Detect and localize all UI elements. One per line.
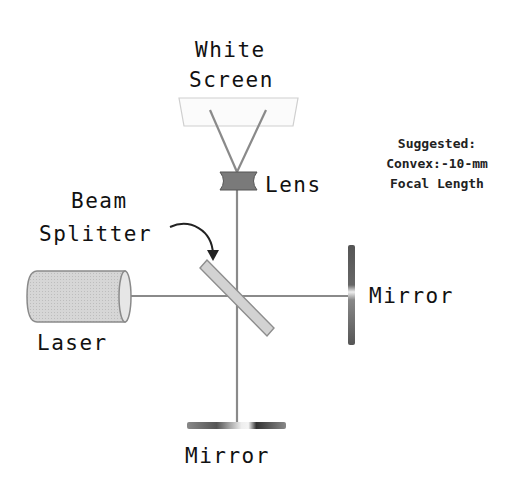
mirror-right	[348, 245, 355, 345]
label-mirror-right: Mirror	[369, 286, 454, 307]
label-laser: Laser	[37, 333, 108, 354]
label-white: White	[195, 40, 266, 61]
note-line2: Convex:-10-mm	[352, 154, 522, 174]
laser-body	[27, 271, 131, 322]
note-line1: Suggested:	[352, 134, 522, 154]
label-mirror-bottom: Mirror	[185, 446, 270, 467]
label-beam: Beam	[71, 191, 128, 212]
suggestion-note: Suggested: Convex:-10-mm Focal Length	[352, 134, 522, 194]
splitter-arrow-icon	[170, 224, 219, 261]
mirror-bottom	[187, 422, 286, 429]
note-line3: Focal Length	[352, 174, 522, 194]
label-splitter: Splitter	[39, 224, 152, 245]
beam-paths	[125, 110, 349, 424]
label-lens: Lens	[265, 175, 322, 196]
lens-icon	[220, 172, 257, 190]
label-screen: Screen	[189, 70, 274, 91]
white-screen	[179, 98, 298, 126]
